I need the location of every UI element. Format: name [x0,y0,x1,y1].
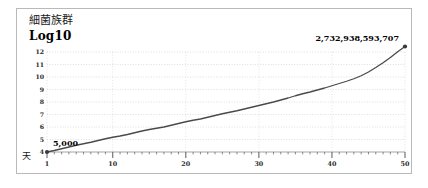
y-tick-label: 8 [40,98,44,105]
line-chart: 456789101112 11020304050 5,0002,732,938,… [17,9,413,175]
x-tick-label: 10 [108,160,117,168]
start-value-annotation: 5,000 [53,138,78,148]
x-tick-label: 20 [181,160,190,168]
data-annotations: 5,0002,732,938,593,707 [53,33,399,149]
y-tick-label: 4 [40,148,45,155]
x-tick-label: 40 [327,160,336,168]
x-tick-label: 50 [401,160,410,168]
end-value-annotation: 2,732,938,593,707 [315,33,399,43]
data-point-marker [45,150,49,154]
horizontal-gridlines [47,52,405,152]
y-axis-tick-labels: 456789101112 [35,48,44,155]
x-axis-tick-labels: 11020304050 [45,160,410,168]
y-tick-label: 9 [40,86,44,93]
x-tick-label: 1 [45,160,49,168]
population-line [47,47,405,153]
data-point-markers [45,44,407,154]
plot-area: 456789101112 11020304050 5,0002,732,938,… [17,9,413,175]
y-tick-label: 6 [40,123,44,130]
y-tick-label: 12 [35,48,44,55]
x-axis-ticks [47,152,405,158]
data-point-marker [403,44,407,48]
y-tick-label: 7 [40,111,44,118]
y-tick-label: 5 [40,136,44,143]
y-tick-label: 10 [35,73,44,80]
x-tick-label: 30 [254,160,263,168]
y-tick-label: 11 [35,61,44,68]
data-line [47,47,405,153]
chart-card: 細菌族群 Log10 天 456789101112 11020304050 5,… [16,8,412,174]
